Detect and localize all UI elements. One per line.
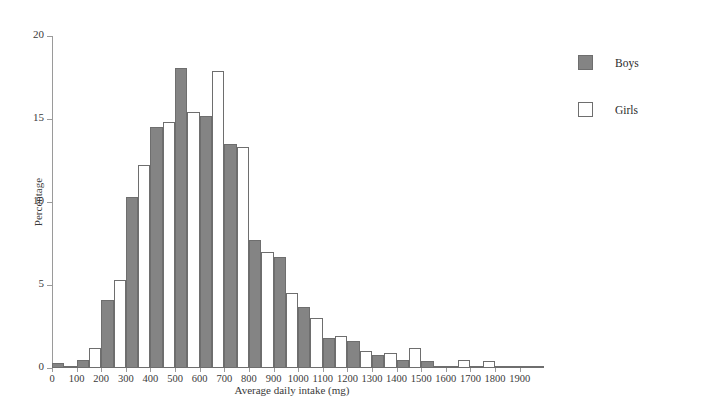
bar-boys-1500-1600 [421,361,433,368]
bar-girls-100-200 [89,348,101,368]
x-tick-mark [397,368,398,372]
y-tick-mark [47,119,52,120]
x-tick-mark [150,368,151,372]
x-tick-label: 100 [69,373,85,384]
bar-boys-300-400 [126,197,138,368]
x-tick-mark [126,368,127,372]
y-tick-mark [47,202,52,203]
plot-area: 05101520 0100200300400500600700800900100… [52,36,532,368]
x-tick-mark [101,368,102,372]
bar-chart: Percentage 05101520 01002003004005006007… [0,0,712,412]
x-tick-label: 900 [266,373,282,384]
bar-girls-500-600 [187,112,199,368]
bar-boys-500-600 [175,68,187,368]
y-tick-label: 15 [33,111,44,123]
y-tick-label: 10 [33,194,44,206]
bar-boys-1700-1800 [470,366,482,368]
bar-girls-1800-1900 [507,366,519,368]
bar-boys-700-800 [224,144,236,368]
x-tick-mark [347,368,348,372]
legend-swatch-girls-icon [578,102,593,117]
x-tick-mark [200,368,201,372]
x-tick-mark [175,368,176,372]
x-tick-label: 1500 [411,373,432,384]
x-tick-label: 600 [192,373,208,384]
bar-girls-1400-1500 [409,348,421,368]
x-tick-mark [446,368,447,372]
x-tick-label: 800 [241,373,257,384]
bar-girls-0-100 [64,366,76,368]
x-tick-label: 1000 [288,373,309,384]
bar-boys-1100-1200 [323,338,335,368]
bar-girls-1100-1200 [335,336,347,368]
bar-boys-800-900 [249,240,261,368]
x-tick-mark [372,368,373,372]
bar-girls-1900-2000 [532,366,544,368]
legend: Boys Girls [578,55,639,149]
bar-girls-1500-1600 [434,366,446,368]
bar-boys-0-100 [52,363,64,368]
x-tick-label: 1900 [509,373,530,384]
bar-girls-800-900 [261,252,273,368]
legend-swatch-boys-icon [578,55,593,70]
x-tick-label: 500 [167,373,183,384]
bar-girls-1700-1800 [483,361,495,368]
bar-girls-700-800 [237,147,249,368]
legend-label-girls: Girls [615,104,638,116]
bar-girls-1600-1700 [458,360,470,368]
bar-boys-1400-1500 [397,360,409,368]
x-tick-label: 300 [118,373,134,384]
x-tick-mark [495,368,496,372]
bar-boys-1900-2000 [520,366,532,368]
x-tick-mark [298,368,299,372]
x-tick-label: 1300 [362,373,383,384]
bar-girls-300-400 [138,165,150,368]
x-tick-mark [421,368,422,372]
x-tick-label: 700 [216,373,232,384]
x-tick-mark [520,368,521,372]
x-tick-label: 1800 [485,373,506,384]
bar-boys-1300-1400 [372,355,384,368]
cropped-caption-sliver [0,0,712,7]
legend-item-girls: Girls [578,102,639,117]
legend-item-boys: Boys [578,55,639,70]
bar-girls-1000-1100 [310,318,322,368]
bar-boys-200-300 [101,300,113,368]
bar-girls-400-500 [163,122,175,368]
x-tick-label: 1200 [337,373,358,384]
y-tick-mark [47,36,52,37]
y-tick-label: 0 [39,360,45,372]
x-tick-mark [323,368,324,372]
bar-boys-900-1000 [274,257,286,368]
bars-layer [52,36,532,368]
bar-girls-600-700 [212,71,224,368]
x-axis-label: Average daily intake (mg) [52,384,532,396]
bar-boys-100-200 [77,360,89,368]
x-tick-label: 400 [143,373,159,384]
x-tick-label: 1100 [312,373,333,384]
x-tick-label: 1700 [460,373,481,384]
x-tick-label: 200 [93,373,109,384]
bar-boys-1600-1700 [446,366,458,368]
bar-girls-200-300 [114,280,126,368]
bar-boys-1000-1100 [298,307,310,368]
x-tick-mark [249,368,250,372]
bar-boys-400-500 [150,127,162,368]
bar-girls-1200-1300 [360,351,372,368]
x-tick-mark [224,368,225,372]
x-tick-label: 1400 [386,373,407,384]
x-tick-label: 0 [49,373,54,384]
x-tick-label: 1600 [435,373,456,384]
bar-girls-1300-1400 [384,353,396,368]
y-tick-label: 20 [33,28,44,40]
legend-label-boys: Boys [615,57,639,69]
bar-boys-1800-1900 [495,366,507,368]
y-tick-label: 5 [39,277,45,289]
bar-girls-900-1000 [286,293,298,368]
y-tick-mark [47,285,52,286]
bar-boys-600-700 [200,116,212,368]
x-tick-mark [77,368,78,372]
x-tick-mark [470,368,471,372]
x-tick-mark [274,368,275,372]
x-tick-mark [52,368,53,372]
